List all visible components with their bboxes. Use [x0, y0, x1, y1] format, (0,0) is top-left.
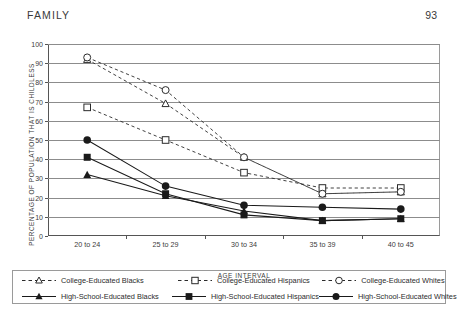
- figure: PERCENTAGE OF POPULATION THAT IS CHILDLE…: [0, 26, 459, 314]
- legend-item-college-educated-whites: College-Educated Whites: [322, 272, 445, 289]
- x-tick-mark: [205, 236, 206, 239]
- y-tick-label: 100: [31, 41, 43, 48]
- data-point: [397, 215, 404, 222]
- legend-label: High-School-Educated Hispanics: [211, 293, 319, 300]
- data-point: [241, 154, 248, 161]
- legend-item-college-educated-blacks: College-Educated Blacks: [13, 272, 178, 289]
- x-tick-label: 25 to 29: [153, 240, 179, 249]
- running-head: FAMILY 93: [27, 9, 437, 23]
- solid-triangle-filled-swatch: [22, 291, 56, 302]
- y-tick-label: 40: [35, 156, 43, 163]
- data-point: [162, 182, 170, 190]
- x-tick-label: 30 to 34: [231, 240, 257, 249]
- data-point: [240, 201, 248, 209]
- data-point: [83, 171, 91, 178]
- data-point: [319, 190, 326, 197]
- dashed-triangle-open-swatch: [22, 275, 56, 286]
- solid-circle-filled-swatch: [319, 291, 353, 302]
- legend-item-high-school-educated-hispanics: High-School-Educated Hispanics: [172, 288, 319, 305]
- legend-row-highschool: High-School-Educated Blacks High-School-…: [13, 288, 445, 305]
- data-point: [83, 136, 91, 144]
- legend-item-college-educated-hispanics: College-Educated Hispanics: [178, 272, 322, 289]
- y-tick-label: 70: [35, 98, 43, 105]
- chart-legend: College-Educated Blacks College-Educated…: [12, 270, 446, 304]
- dashed-square-open-swatch: [178, 275, 212, 286]
- data-point: [319, 203, 327, 211]
- x-tick-mark: [362, 236, 363, 239]
- legend-label: High-School-Educated Blacks: [61, 293, 159, 300]
- legend-label: College-Educated Whites: [361, 277, 444, 284]
- data-point: [84, 104, 91, 111]
- y-tick-label: 50: [35, 137, 43, 144]
- y-tick-label: 0: [39, 233, 43, 240]
- data-point: [397, 205, 405, 213]
- solid-square-filled-swatch: [172, 291, 206, 302]
- data-point: [241, 169, 248, 176]
- legend-item-high-school-educated-blacks: High-School-Educated Blacks: [13, 288, 172, 305]
- data-point: [162, 190, 169, 197]
- chart-series-layer: [48, 44, 440, 236]
- x-tick-mark: [283, 236, 284, 239]
- dashed-circle-open-swatch: [322, 275, 356, 286]
- legend-label: College-Educated Hispanics: [217, 277, 310, 284]
- page-number: 93: [425, 9, 437, 21]
- x-tick-mark: [126, 236, 127, 239]
- data-point: [162, 87, 169, 94]
- plot-area: 0102030405060708090100: [48, 44, 440, 236]
- legend-item-high-school-educated-whites: High-School-Educated Whites: [319, 288, 445, 305]
- y-tick-mark: [45, 236, 48, 237]
- data-point: [162, 137, 169, 144]
- legend-label: High-School-Educated Whites: [358, 293, 457, 300]
- y-axis-title: PERCENTAGE OF POPULATION THAT IS CHILDLE…: [28, 55, 35, 255]
- data-point: [241, 211, 248, 218]
- x-tick-label: 35 to 39: [309, 240, 335, 249]
- y-tick-label: 60: [35, 117, 43, 124]
- data-point: [84, 54, 91, 61]
- x-tick-label: 40 to 45: [388, 240, 414, 249]
- running-head-title: FAMILY: [27, 9, 70, 21]
- series-high-school-educated-hispanics: [84, 154, 405, 224]
- y-tick-label: 10: [35, 213, 43, 220]
- data-point: [319, 217, 326, 224]
- data-point: [84, 154, 91, 161]
- y-tick-label: 30: [35, 175, 43, 182]
- y-tick-label: 80: [35, 79, 43, 86]
- y-tick-label: 20: [35, 194, 43, 201]
- y-tick-label: 90: [35, 60, 43, 67]
- page: FAMILY 93 PERCENTAGE OF POPULATION THAT …: [0, 0, 459, 314]
- data-point: [397, 188, 404, 195]
- x-tick-label: 20 to 24: [74, 240, 100, 249]
- legend-row-college: College-Educated Blacks College-Educated…: [13, 272, 445, 289]
- legend-label: College-Educated Blacks: [61, 277, 144, 284]
- data-point: [162, 100, 169, 107]
